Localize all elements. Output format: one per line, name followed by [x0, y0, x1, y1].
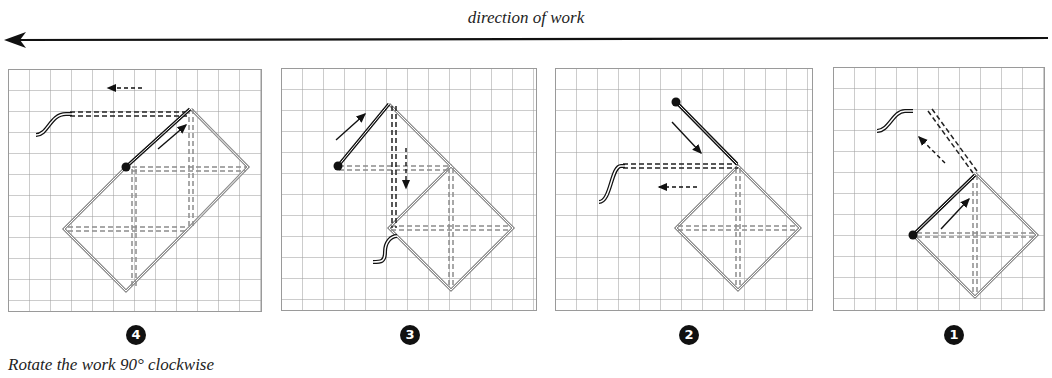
rotate-instruction: Rotate the work 90° clockwise [8, 355, 214, 375]
step-number-2: 2 [679, 325, 699, 345]
direction-arrow-icon [0, 28, 1052, 52]
panel-step-3 [281, 68, 537, 315]
panel-step-2 [555, 68, 813, 315]
panel-step-1 [833, 67, 1045, 315]
panel-step-4 [8, 69, 262, 316]
step-number-1: 1 [944, 325, 964, 345]
step-number-3: 3 [400, 325, 420, 345]
step-number-4: 4 [126, 325, 146, 345]
direction-of-work-label: direction of work [0, 8, 1052, 28]
